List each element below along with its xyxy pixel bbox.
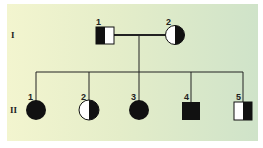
individual-number: 2: [166, 17, 171, 27]
female-symbol-affected: [26, 100, 46, 120]
carrier-shading: [243, 102, 252, 120]
individual-number: 3: [131, 92, 136, 102]
pedigree-lines: [36, 35, 243, 102]
carrier-shading: [175, 26, 185, 45]
individual-number: 1: [96, 17, 101, 27]
male-symbol-affected: [182, 102, 200, 120]
pedigree-chart: I II 1 2 1 2 3 4 5: [0, 0, 263, 148]
individual-number: 4: [184, 92, 189, 102]
individual-number: 1: [28, 92, 33, 102]
generation-label-II: II: [10, 105, 18, 115]
generation-label-I: I: [11, 30, 15, 40]
carrier-shading: [89, 100, 99, 120]
individual-I-2: 2: [166, 17, 185, 45]
individual-I-1: 1: [96, 17, 114, 44]
individual-number: 5: [236, 92, 241, 102]
carrier-shading: [96, 27, 105, 44]
female-symbol-affected: [129, 100, 149, 120]
